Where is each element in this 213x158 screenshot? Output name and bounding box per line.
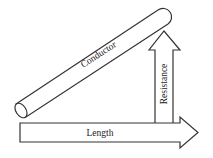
resistance-label: Resistance (159, 64, 169, 105)
length-label: Length (87, 128, 114, 138)
conductor-resistance-diagram: Conductor Resistance Length (0, 0, 213, 158)
conductor-cylinder: Conductor (12, 8, 171, 120)
resistance-arrow: Resistance (149, 31, 180, 124)
